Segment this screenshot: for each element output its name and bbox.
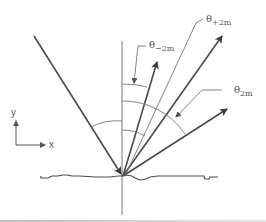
theta-2m-leader (176, 90, 222, 117)
theta-minus-2m-leader (134, 46, 146, 83)
angle-arc-inner (122, 130, 145, 136)
x-axis-label: x (49, 139, 54, 150)
xy-axes-indicator: y x (11, 107, 54, 150)
diffraction-diagram: y x θ−2m θ+2m θ2m (0, 0, 266, 222)
incident-angle-arc (91, 121, 122, 127)
reflected-beam-2m (123, 109, 227, 176)
label-theta-2m: θ2m (234, 84, 253, 98)
reflected-beam-plus-2m (123, 36, 222, 176)
rough-surface-profile (41, 175, 218, 180)
incident-beam (34, 36, 121, 174)
angle-arc-2m (122, 101, 185, 134)
angle-arc-minus-2m (122, 84, 147, 87)
leader-line-plus-2m (125, 19, 203, 176)
bottom-border (0, 220, 266, 222)
label-theta-plus-2m: θ+2m (206, 13, 232, 27)
y-axis-label: y (11, 107, 16, 118)
label-theta-minus-2m: θ−2m (149, 39, 175, 53)
